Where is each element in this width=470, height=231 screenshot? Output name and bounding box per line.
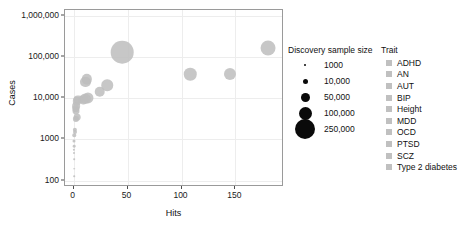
y-axis-title: Cases [7, 63, 17, 123]
y-tick-mark [61, 97, 64, 98]
gridline-horizontal [65, 139, 282, 140]
gridline-horizontal [65, 16, 282, 17]
size-legend-label: 250,000 [322, 124, 355, 134]
trait-legend-item[interactable]: Height [381, 103, 457, 115]
y-tick-mark [61, 138, 64, 139]
trait-legend-label: PTSD [397, 139, 420, 149]
trait-legend-item[interactable]: Type 2 diabetes [381, 161, 457, 173]
x-tick-mark [181, 186, 182, 189]
trait-legend-label: BIP [397, 93, 411, 103]
trait-legend-label: OCD [397, 127, 416, 137]
data-point [73, 145, 76, 148]
size-legend-label: 100,000 [322, 108, 355, 118]
size-legend-item[interactable]: 250,000 [288, 121, 373, 137]
gridline-vertical [182, 10, 183, 185]
trait-legend-item[interactable]: OCD [381, 127, 457, 139]
data-point [73, 140, 76, 143]
trait-legend-item[interactable]: AN [381, 69, 457, 81]
y-tick-mark [61, 56, 64, 57]
y-tick-mark [61, 179, 64, 180]
trait-legend-swatch [386, 129, 392, 135]
x-tick-mark [127, 186, 128, 189]
scatter-plot-figure: 100100010,000100,0001,000,000 050100150 … [0, 0, 470, 231]
gridline-vertical [128, 10, 129, 185]
trait-legend-item[interactable]: ADHD [381, 57, 457, 69]
y-tick-label: 1000 [40, 134, 59, 143]
x-tick-label: 150 [227, 191, 241, 200]
data-point [80, 77, 90, 87]
y-tick-label: 1,000,000 [21, 11, 59, 20]
data-point [73, 168, 75, 170]
size-legend-item[interactable]: 1000 [288, 57, 373, 73]
gridline-horizontal [65, 181, 282, 182]
y-tick-label: 10,000 [33, 93, 59, 102]
size-legend-label: 50,000 [322, 92, 350, 102]
y-tick-label: 100 [45, 175, 59, 184]
trait-legend-label: Type 2 diabetes [397, 162, 457, 172]
size-legend-item[interactable]: 10,000 [288, 73, 373, 89]
data-point [260, 40, 275, 55]
y-tick-label: 100,000 [28, 52, 59, 61]
trait-legend-entries: ADHDANAUTBIPHeightMDDOCDPTSDSCZType 2 di… [381, 57, 457, 173]
size-legend-bubble [288, 64, 322, 66]
data-point [73, 158, 75, 160]
size-legend-label: 10,000 [322, 76, 350, 86]
size-legend-bubble [288, 107, 322, 120]
trait-legend-label: AN [397, 69, 409, 79]
gridline-horizontal [65, 98, 282, 99]
trait-legend-swatch [386, 164, 392, 170]
size-legend-bubble [288, 93, 322, 102]
trait-legend-item[interactable]: MDD [381, 115, 457, 127]
x-tick-mark [234, 186, 235, 189]
size-legend-entries: 100010,00050,000100,000250,000 [288, 57, 373, 137]
data-point [73, 175, 75, 177]
trait-legend-item[interactable]: BIP [381, 92, 457, 104]
size-legend-bubble [288, 119, 322, 139]
trait-legend-swatch [386, 71, 392, 77]
trait-legend-label: ADHD [397, 58, 421, 68]
trait-legend-swatch [386, 83, 392, 89]
trait-legend-label: SCZ [397, 151, 414, 161]
size-legend-title: Discovery sample size [288, 45, 373, 55]
trait-legend-label: AUT [397, 81, 414, 91]
x-axis-title: Hits [64, 208, 283, 218]
x-tick-label: 50 [122, 191, 131, 200]
data-point [94, 86, 105, 97]
size-legend: Discovery sample size 100010,00050,00010… [288, 45, 373, 137]
data-point [73, 152, 75, 154]
trait-legend-swatch [386, 106, 392, 112]
data-point [73, 134, 76, 137]
size-legend-bubble [288, 79, 322, 84]
trait-legend-item[interactable]: PTSD [381, 138, 457, 150]
trait-legend-swatch [386, 60, 392, 66]
trait-legend-item[interactable]: AUT [381, 80, 457, 92]
data-point [111, 41, 134, 64]
trait-legend-swatch [386, 141, 392, 147]
trait-legend-label: Height [397, 104, 422, 114]
x-tick-mark [73, 186, 74, 189]
data-point [224, 68, 236, 80]
plot-panel [64, 9, 283, 186]
y-tick-mark [61, 15, 64, 16]
trait-legend-swatch [386, 153, 392, 159]
size-legend-item[interactable]: 50,000 [288, 89, 373, 105]
trait-legend-label: MDD [397, 116, 416, 126]
trait-legend-swatch [386, 95, 392, 101]
x-tick-label: 0 [70, 191, 75, 200]
x-tick-label: 100 [173, 191, 187, 200]
data-point [73, 116, 79, 122]
trait-legend: Trait ADHDANAUTBIPHeightMDDOCDPTSDSCZTyp… [381, 45, 457, 173]
gridline-vertical [235, 10, 236, 185]
data-point [184, 68, 196, 80]
trait-legend-swatch [386, 118, 392, 124]
size-legend-label: 1000 [322, 60, 343, 70]
trait-legend-title: Trait [381, 45, 457, 55]
trait-legend-item[interactable]: SCZ [381, 150, 457, 162]
gridline-horizontal [65, 57, 282, 58]
